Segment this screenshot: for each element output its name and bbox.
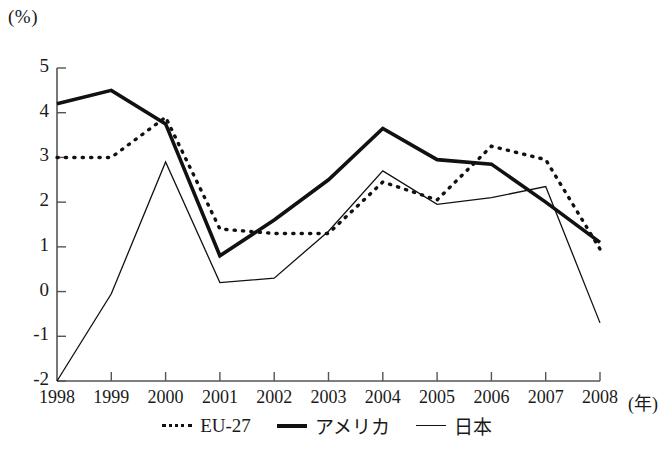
legend-swatch-thick-solid-icon <box>277 424 307 428</box>
x-axis-tick-label: 2000 <box>138 387 194 408</box>
y-axis-tick-label: 2 <box>9 189 49 211</box>
legend-swatch-thin-solid-icon <box>416 425 446 426</box>
y-axis-tick-label: 0 <box>9 279 49 301</box>
x-axis-tick-label: 2007 <box>518 387 574 408</box>
legend-label-japan: 日本 <box>454 412 492 439</box>
legend-label-america: アメリカ <box>315 412 390 439</box>
x-axis-tick-label: 2005 <box>409 387 465 408</box>
x-axis-tick-label: 2008 <box>572 387 628 408</box>
x-axis-tick-label: 2003 <box>301 387 357 408</box>
legend-label-eu27: EU-27 <box>200 415 251 437</box>
y-axis-tick-label: 3 <box>9 144 49 166</box>
legend-item-eu27: EU-27 <box>162 415 251 437</box>
x-axis-tick-label: 2001 <box>192 387 248 408</box>
y-axis-tick-label: 5 <box>9 55 49 77</box>
series-lines <box>57 90 600 381</box>
y-axis-tick-label: 4 <box>9 100 49 122</box>
legend-swatch-dashed-icon <box>162 424 192 427</box>
x-axis-tick-label: 2002 <box>246 387 302 408</box>
x-axis-tick-label: 2006 <box>463 387 519 408</box>
legend-item-america: アメリカ <box>277 412 390 439</box>
x-axis-tick-label: 1999 <box>83 387 139 408</box>
series-line-3 <box>57 162 600 381</box>
chart-legend: EU-27 アメリカ 日本 <box>0 412 654 439</box>
y-axis-tick-label: -1 <box>9 323 49 345</box>
legend-item-japan: 日本 <box>416 412 492 439</box>
x-axis-tick-label: 2004 <box>355 387 411 408</box>
x-axis-tick-label: 1998 <box>29 387 85 408</box>
y-axis-tick-label: 1 <box>9 234 49 256</box>
axes <box>57 68 600 381</box>
